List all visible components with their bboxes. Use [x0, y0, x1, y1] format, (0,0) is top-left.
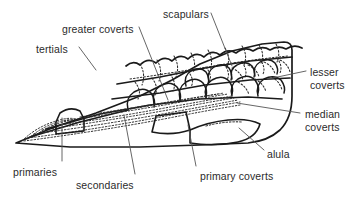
leader-secondaries [124, 115, 135, 174]
leader-tertials [79, 47, 96, 70]
label-secondaries: secondaries [76, 179, 134, 192]
label-lesser-coverts: lesser coverts [310, 66, 345, 91]
label-greater-coverts: greater coverts [62, 23, 134, 36]
leader-alula [239, 128, 264, 150]
label-alula: alula [267, 148, 290, 161]
label-primary-coverts: primary coverts [200, 170, 273, 183]
bird-wing-diagram: tertials greater coverts scapulars lesse… [0, 0, 358, 203]
label-median-coverts: median coverts [305, 108, 340, 133]
label-tertials: tertials [36, 43, 68, 56]
label-scapulars: scapulars [163, 8, 209, 21]
label-primaries: primaries [13, 166, 57, 179]
wing-outline-group [16, 42, 302, 147]
alula-lobe [190, 120, 260, 145]
